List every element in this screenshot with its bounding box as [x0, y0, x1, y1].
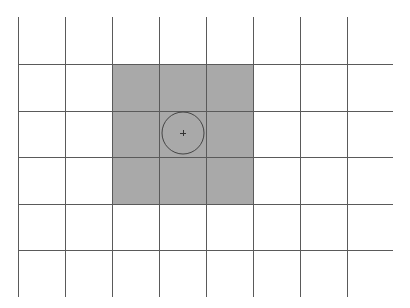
- grid-lines: [18, 17, 393, 297]
- grid-diagram: [0, 0, 410, 308]
